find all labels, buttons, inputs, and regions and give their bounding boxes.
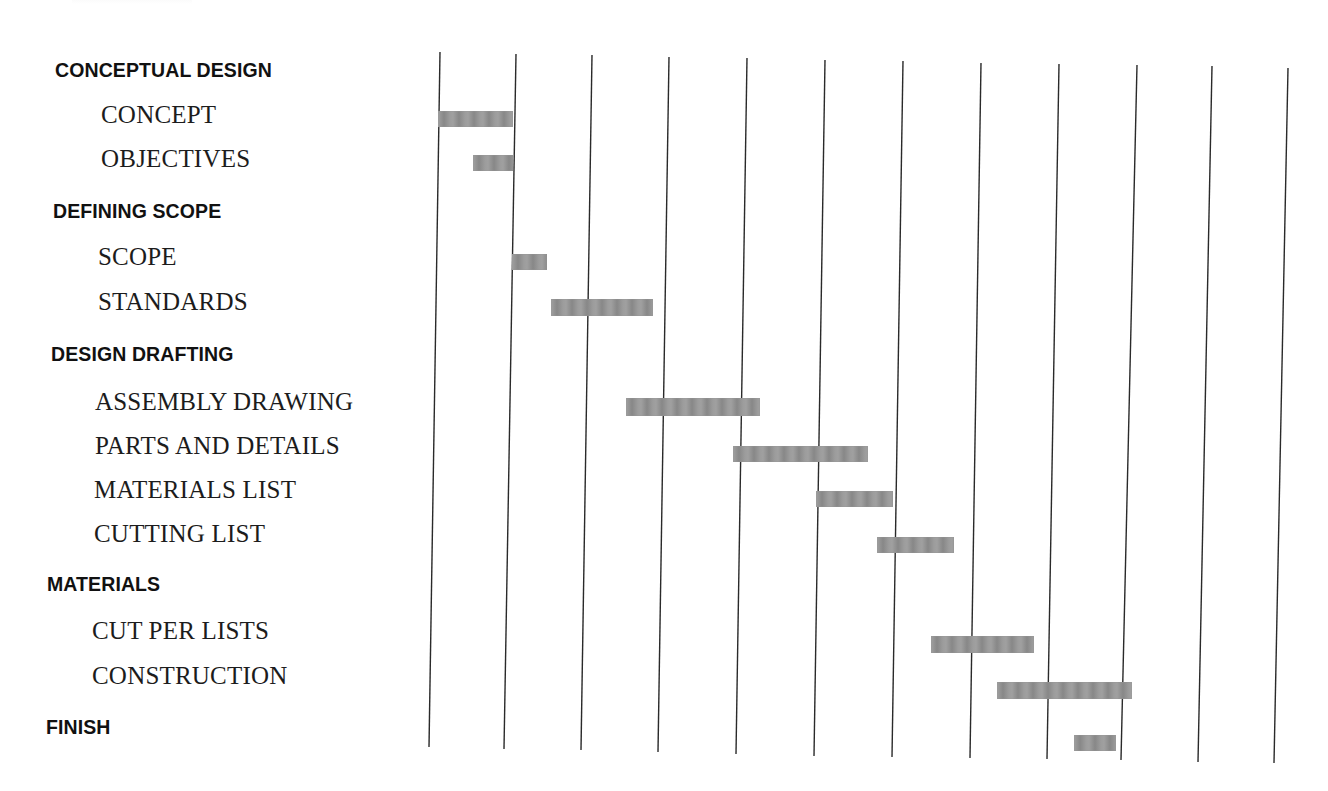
phase-heading-defining-scope: DEFINING SCOPE: [53, 202, 221, 222]
task-label-cut-per-lists: CUT PER LISTS: [92, 618, 269, 643]
task-label-scope: SCOPE: [98, 244, 177, 269]
task-bar-standards: [551, 299, 653, 316]
task-label-objectives: OBJECTIVES: [101, 146, 250, 171]
phase-heading-conceptual-design: CONCEPTUAL DESIGN: [55, 61, 272, 81]
gridline-3: [581, 55, 592, 750]
phase-heading-finish: FINISH: [46, 718, 111, 738]
task-bar-construction: [997, 682, 1132, 699]
gridline-6: [814, 60, 825, 756]
task-bar-parts-and-details: [733, 446, 868, 462]
task-bar-assembly-drawing: [626, 398, 760, 416]
task-label-materials-list: MATERIALS LIST: [94, 477, 296, 502]
task-bar-scope: [512, 254, 547, 270]
task-label-concept: CONCEPT: [101, 102, 216, 127]
task-label-cutting-list: CUTTING LIST: [94, 521, 265, 546]
task-label-standards: STANDARDS: [98, 289, 248, 314]
phase-heading-design-drafting: DESIGN DRAFTING: [51, 345, 233, 365]
task-bar-objectives: [473, 155, 513, 171]
gridline-10: [1121, 65, 1137, 760]
gantt-chart-figure: CONCEPTUAL DESIGNCONCEPTOBJECTIVESDEFINI…: [0, 0, 1328, 791]
gridline-11: [1198, 66, 1212, 762]
task-label-construction: CONSTRUCTION: [92, 663, 287, 688]
gridline-9: [1047, 64, 1059, 759]
phase-heading-materials: MATERIALS: [47, 575, 160, 595]
task-bar-finish: [1074, 735, 1116, 751]
gridline-1: [429, 52, 440, 747]
task-label-assembly-drawing: ASSEMBLY DRAWING: [95, 389, 353, 414]
task-bar-cut-per-lists: [931, 636, 1034, 653]
task-bar-concept: [438, 111, 513, 127]
task-bar-cutting-list: [877, 537, 954, 553]
task-label-parts-and-details: PARTS AND DETAILS: [95, 433, 340, 458]
task-bar-materials-list: [816, 491, 893, 507]
gridline-8: [970, 63, 981, 758]
gridline-7: [892, 61, 903, 757]
gridline-12: [1274, 68, 1288, 763]
